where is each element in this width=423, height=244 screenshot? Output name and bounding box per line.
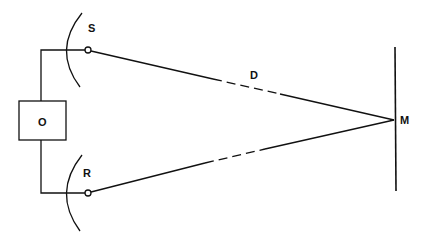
source-port [85,47,91,53]
path-top-dashed [213,79,280,94]
label-source: S [88,22,95,34]
path-top-solid-2 [280,94,394,120]
wire-bottom [41,140,88,193]
label-receiver: R [83,167,91,179]
receiver-port [85,190,91,196]
label-distance: D [250,69,258,81]
label-mirror: M [400,114,409,126]
mirror-line [395,47,396,191]
path-top-solid-1 [91,51,213,79]
label-oscillator: O [38,116,47,128]
path-bottom-solid-1 [91,163,205,192]
path-bottom-solid-2 [265,120,394,149]
wire-top [41,50,88,101]
path-bottom-dashed [205,149,265,163]
radar-diagram: S R D M O [0,0,423,244]
